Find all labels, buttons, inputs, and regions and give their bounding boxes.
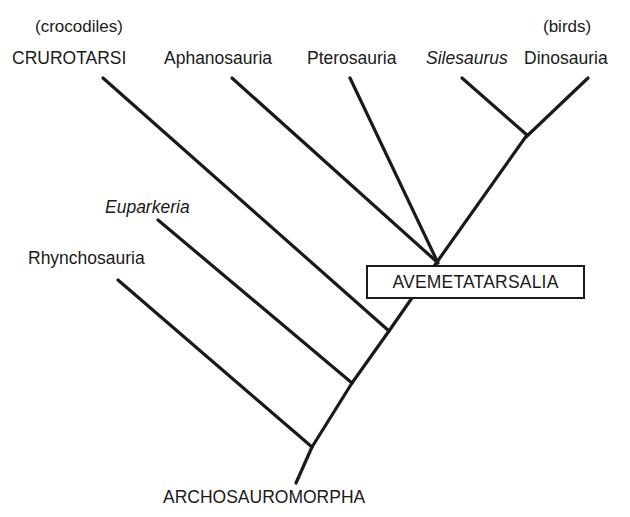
taxon-annotation-crurotarsi: (crocodiles) xyxy=(35,18,123,35)
taxon-label-euparkeria: Euparkeria xyxy=(105,199,190,217)
branch-silesaurus xyxy=(462,78,527,135)
taxon-annotation-dinosauria: (birds) xyxy=(543,18,591,35)
taxon-label-crurotarsi: CRUROTARSI xyxy=(12,50,126,68)
branch-dinosauria xyxy=(526,78,588,137)
clade-label-archosauromorpha: ARCHOSAUROMORPHA xyxy=(163,489,365,507)
branch-pterosauria xyxy=(350,78,438,263)
branch-rhynchosauria xyxy=(118,280,312,447)
taxon-label-rhynchosauria: Rhynchosauria xyxy=(28,250,145,268)
branch-euparkeria xyxy=(158,220,352,383)
branch-aphanosauria xyxy=(232,78,437,262)
clade-label-avemetatarsalia: AVEMETATARSALIA xyxy=(392,272,558,293)
cladogram-figure: (crocodiles)CRUROTARSIAphanosauriaPteros… xyxy=(0,0,630,517)
clade-box-avemetatarsalia: AVEMETATARSALIA xyxy=(366,265,585,299)
backbone-root-stem xyxy=(296,447,312,483)
taxon-label-pterosauria: Pterosauria xyxy=(307,50,397,68)
taxon-label-aphanosauria: Aphanosauria xyxy=(164,50,272,68)
backbone-crurotarsi xyxy=(352,331,389,383)
backbone-upper xyxy=(437,135,527,262)
backbone-euparkeria xyxy=(312,383,352,447)
taxon-label-dinosauria: Dinosauria xyxy=(524,50,608,68)
taxon-label-silesaurus: Silesaurus xyxy=(426,50,508,68)
